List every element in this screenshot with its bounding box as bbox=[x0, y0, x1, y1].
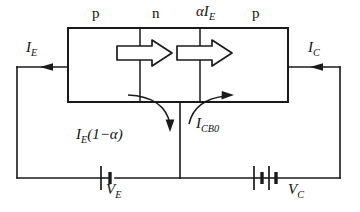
label-region-n: n bbox=[152, 6, 160, 21]
collector-battery-symbol bbox=[254, 166, 276, 190]
label-emitter-current-subscript: E bbox=[31, 47, 37, 58]
label-emitter-current: IE bbox=[26, 40, 37, 58]
block-arrow-drift-2 bbox=[177, 40, 232, 66]
block-arrow-drift-1 bbox=[117, 40, 172, 66]
label-alpha-ie-subscript: E bbox=[209, 11, 215, 22]
label-collector-current: IC bbox=[308, 40, 320, 58]
label-emitter-supply: VE bbox=[106, 182, 121, 200]
label-emitter-supply-subscript: E bbox=[115, 189, 121, 200]
label-base-current-tail: (1−α) bbox=[87, 126, 123, 142]
label-base-current: IE(1−α) bbox=[76, 127, 123, 145]
transistor-circuit-figure: p n αIE p IE IC IE(1−α) ICB0 VE VC bbox=[0, 0, 360, 212]
collector-current-arrowhead bbox=[310, 63, 323, 71]
label-region-p-right: p bbox=[252, 6, 260, 21]
label-leakage-current: ICB0 bbox=[196, 116, 219, 134]
base-current-arrowhead bbox=[166, 120, 175, 133]
label-alpha-ie-main: αI bbox=[196, 3, 209, 19]
label-region-p-left: p bbox=[92, 6, 100, 21]
label-collector-supply-subscript: C bbox=[297, 189, 304, 200]
circuit-schematic bbox=[0, 0, 360, 212]
label-collector-supply-main: V bbox=[288, 181, 297, 197]
label-collector-supply: VC bbox=[288, 182, 304, 200]
leakage-current-arrowhead bbox=[222, 91, 235, 100]
label-emitter-supply-main: V bbox=[106, 181, 115, 197]
transistor-body-box bbox=[68, 28, 288, 102]
emitter-current-arrowhead bbox=[40, 63, 53, 71]
label-alpha-ie: αIE bbox=[196, 4, 215, 22]
base-current-curve bbox=[128, 95, 170, 124]
label-collector-current-subscript: C bbox=[313, 47, 320, 58]
label-leakage-current-subscript: CB0 bbox=[201, 123, 219, 134]
